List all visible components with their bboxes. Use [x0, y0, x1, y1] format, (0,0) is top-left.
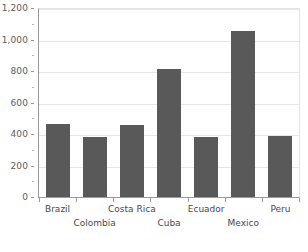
x-axis-category-label: Cuba [157, 218, 180, 228]
bar [157, 69, 181, 197]
y-axis-tick-mark [31, 40, 34, 41]
x-axis-tick-mark [76, 198, 77, 202]
y-axis-tick-label: 1,000 [2, 35, 28, 45]
y-axis-minor-tick [32, 181, 34, 182]
bar [120, 125, 144, 197]
y-axis-minor-tick [32, 55, 34, 56]
y-axis-minor-tick [32, 118, 34, 119]
y-axis-tick-mark [31, 166, 34, 167]
bars-layer [39, 8, 299, 197]
y-axis-tick-mark [31, 134, 34, 135]
x-axis-tick-mark [262, 198, 263, 202]
y-axis-tick-label: 600 [11, 98, 28, 108]
x-axis-tick-mark [150, 198, 151, 202]
y-axis-tick-label: 1,200 [2, 3, 28, 13]
x-axis-tick-mark [39, 198, 40, 202]
bar [268, 136, 292, 197]
bar [83, 137, 107, 197]
bar-chart: 02004006008001,0001,200 BrazilColombiaCo… [0, 0, 308, 252]
x-axis-category-label: Mexico [228, 218, 259, 228]
y-axis-minor-tick [32, 87, 34, 88]
y-axis-tick-label: 200 [11, 161, 28, 171]
x-axis-tick-mark [299, 198, 300, 202]
bar [231, 31, 255, 197]
x-axis: BrazilColombiaCosta RicaCubaEcuadorMexic… [38, 198, 300, 252]
y-axis-tick-mark [31, 197, 34, 198]
x-axis-tick-mark [188, 198, 189, 202]
x-axis-tick-mark [225, 198, 226, 202]
x-axis-category-label: Ecuador [188, 204, 225, 214]
x-axis-category-label: Costa Rica [108, 204, 156, 214]
y-axis-minor-tick [32, 24, 34, 25]
x-axis-category-label: Peru [270, 204, 290, 214]
y-axis-minor-tick [32, 150, 34, 151]
y-axis-tick-label: 800 [11, 66, 28, 76]
y-axis-tick-mark [31, 71, 34, 72]
bar [46, 124, 70, 197]
y-axis-tick-label: 0 [22, 192, 28, 202]
x-axis-category-label: Brazil [45, 204, 70, 214]
x-axis-tick-mark [113, 198, 114, 202]
y-axis-tick-mark [31, 8, 34, 9]
y-axis-tick-label: 400 [11, 129, 28, 139]
y-axis: 02004006008001,0001,200 [0, 0, 34, 206]
bar [194, 137, 218, 197]
y-axis-tick-mark [31, 103, 34, 104]
x-axis-category-label: Colombia [74, 218, 116, 228]
